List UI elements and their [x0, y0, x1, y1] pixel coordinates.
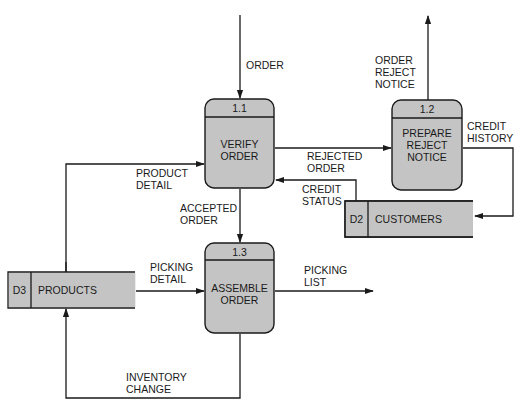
flow-picking-detail-label-1: PICKING	[150, 261, 193, 273]
flow-accepted-order-label-2: ORDER	[180, 214, 218, 226]
flow-order-label: ORDER	[246, 59, 284, 71]
process-verify-order: 1.1 VERIFY ORDER	[205, 99, 274, 188]
process-name-line-1: PREPARE	[402, 127, 451, 139]
flow-order-reject-notice-label-2: REJECT	[375, 66, 416, 78]
flow-picking-list-label-1: PICKING	[304, 264, 347, 276]
flow-inventory-change-label-1: INVENTORY	[126, 371, 187, 383]
data-store-products: D3 PRODUCTS	[8, 272, 135, 308]
flow-rejected-order-label-2: ORDER	[307, 162, 345, 174]
flow-order-reject-notice-label-3: NOTICE	[375, 78, 415, 90]
process-id: 1.1	[232, 102, 247, 114]
data-flow-diagram: ORDER ORDER REJECT NOTICE REJECTED ORDER…	[0, 0, 525, 406]
flow-rejected-order-label-1: REJECTED	[307, 150, 363, 162]
flow-picking-list-label-2: LIST	[304, 276, 327, 288]
process-assemble-order: 1.3 ASSEMBLE ORDER	[205, 243, 274, 333]
flow-product-detail-label-1: PRODUCT	[136, 167, 189, 179]
flow-credit-status-label-2: STATUS	[302, 195, 342, 207]
process-id: 1.3	[232, 246, 247, 258]
flow-accepted-order-label-1: ACCEPTED	[180, 202, 238, 214]
process-name-line-2: REJECT	[407, 139, 448, 151]
store-name: PRODUCTS	[38, 284, 97, 296]
store-id: D2	[350, 213, 364, 225]
process-name-line-2: ORDER	[221, 294, 259, 306]
flow-picking-detail-label-2: DETAIL	[150, 273, 186, 285]
flow-credit-status-label-1: CREDIT	[302, 183, 342, 195]
process-name-line-3: NOTICE	[407, 151, 447, 163]
process-name-line-1: ASSEMBLE	[211, 282, 268, 294]
flow-order-reject-notice-label-1: ORDER	[375, 54, 413, 66]
process-name-line-2: ORDER	[221, 150, 259, 162]
data-store-customers: D2 CUSTOMERS	[345, 201, 473, 237]
process-name-line-1: VERIFY	[221, 138, 259, 150]
flow-picking-detail: PICKING DETAIL	[136, 261, 204, 291]
flow-product-detail-label-2: DETAIL	[136, 179, 172, 191]
process-id: 1.2	[420, 103, 435, 115]
flow-credit-status: CREDIT STATUS	[276, 180, 356, 207]
flow-order: ORDER	[240, 15, 284, 98]
flow-inventory-change-label-2: CHANGE	[126, 383, 171, 395]
flow-credit-history-label-2: HISTORY	[467, 132, 513, 144]
process-prepare-reject-notice: 1.2 PREPARE REJECT NOTICE	[392, 100, 462, 190]
flow-order-reject-notice: ORDER REJECT NOTICE	[375, 16, 428, 100]
flow-rejected-order: REJECTED ORDER	[275, 148, 391, 174]
store-name: CUSTOMERS	[375, 213, 442, 225]
flow-picking-list: PICKING LIST	[275, 264, 373, 291]
flow-credit-history-label-1: CREDIT	[467, 120, 507, 132]
flow-accepted-order: ACCEPTED ORDER	[180, 189, 240, 242]
store-id: D3	[13, 284, 27, 296]
